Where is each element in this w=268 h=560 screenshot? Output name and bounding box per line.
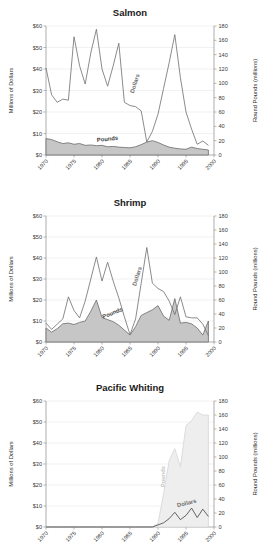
salmon-y-left-ticklabel: $10 [33, 131, 42, 137]
salmon-x-ticklabel: 1990 [148, 158, 161, 171]
pacific-whiting-y-left-ticklabel: $40 [33, 440, 42, 446]
shrimp-x-ticklabel: 1990 [148, 345, 161, 358]
salmon-y-left-ticklabel: $20 [33, 109, 42, 115]
shrimp-x-ticklabel: 1975 [64, 345, 77, 358]
shrimp-y-left-ticklabel: $50 [33, 234, 42, 240]
shrimp-y-left-ticklabel: $40 [33, 255, 42, 261]
shrimp-y-left-ticklabel: $0 [36, 339, 42, 345]
salmon-x-ticklabel: 1975 [64, 158, 77, 171]
pacific-whiting-y-left-ticklabel: $60 [33, 398, 42, 404]
shrimp-y-axis-left-title: Millions of Dollars [8, 256, 14, 302]
shrimp-chart-title: Shrimp [114, 197, 147, 208]
shrimp-y-axis-right-title: Round Pounds (millions) [252, 247, 258, 310]
shrimp-chart-svg: $0$10$20$30$40$50$6002040608010012014016… [0, 190, 268, 375]
chart-panel-shrimp: $0$10$20$30$40$50$6002040608010012014016… [0, 190, 268, 375]
pacific-whiting-y-right-ticklabel: 80 [219, 468, 225, 474]
salmon-y-right-ticklabel: 160 [219, 37, 228, 43]
salmon-y-right-ticklabel: 120 [219, 66, 228, 72]
figure-root: $0$10$20$30$40$50$6002040608010012014016… [0, 0, 268, 560]
shrimp-x-ticklabel: 2000 [204, 345, 217, 358]
salmon-chart-svg: $0$10$20$30$40$50$6002040608010012014016… [0, 0, 268, 190]
salmon-y-right-ticklabel: 80 [219, 95, 225, 101]
shrimp-y-right-ticklabel: 0 [219, 339, 222, 345]
shrimp-x-ticklabel: 1985 [120, 345, 133, 358]
pacific-whiting-x-ticklabel: 1980 [92, 530, 105, 543]
salmon-y-left-ticklabel: $40 [33, 66, 42, 72]
pacific-whiting-y-right-ticklabel: 20 [219, 510, 225, 516]
salmon-x-ticklabel: 1980 [92, 158, 105, 171]
shrimp-y-right-ticklabel: 180 [219, 213, 228, 219]
chart-panel-pacific-whiting: $0$10$20$30$40$50$6002040608010012014016… [0, 375, 268, 560]
salmon-x-ticklabel: 1995 [176, 158, 189, 171]
pacific-whiting-y-left-ticklabel: $20 [33, 482, 42, 488]
salmon-y-axis-left-title: Millions of Dollars [8, 68, 14, 114]
shrimp-y-right-ticklabel: 120 [219, 255, 228, 261]
salmon-y-right-ticklabel: 20 [219, 138, 225, 144]
salmon-y-right-ticklabel: 60 [219, 109, 225, 115]
salmon-y-left-ticklabel: $0 [36, 152, 42, 158]
shrimp-y-right-ticklabel: 60 [219, 297, 225, 303]
pacific-whiting-y-axis-right-title: Round Pounds (millions) [252, 432, 258, 495]
salmon-y-right-ticklabel: 180 [219, 23, 228, 29]
pacific-whiting-y-left-ticklabel: $30 [33, 461, 42, 467]
salmon-y-right-ticklabel: 40 [219, 123, 225, 129]
salmon-x-ticklabel: 2000 [204, 158, 217, 171]
shrimp-y-right-ticklabel: 80 [219, 283, 225, 289]
shrimp-y-left-ticklabel: $60 [33, 213, 42, 219]
shrimp-y-right-ticklabel: 160 [219, 227, 228, 233]
shrimp-y-right-ticklabel: 100 [219, 269, 228, 275]
pacific-whiting-annotation-pounds: Pounds [160, 466, 166, 487]
pacific-whiting-y-right-ticklabel: 60 [219, 482, 225, 488]
shrimp-x-ticklabel: 1970 [36, 345, 49, 358]
pacific-whiting-y-axis-left-title: Millions of Dollars [8, 441, 14, 487]
shrimp-y-left-ticklabel: $20 [33, 297, 42, 303]
shrimp-y-right-ticklabel: 40 [219, 311, 225, 317]
pacific-whiting-chart-title: Pacific Whiting [96, 382, 164, 393]
salmon-y-axis-right-title: Round Pounds (millions) [252, 59, 258, 122]
shrimp-y-right-ticklabel: 20 [219, 325, 225, 331]
pacific-whiting-y-right-ticklabel: 120 [219, 440, 228, 446]
salmon-chart-title: Salmon [113, 7, 148, 18]
shrimp-x-ticklabel: 1995 [176, 345, 189, 358]
pacific-whiting-y-right-ticklabel: 40 [219, 496, 225, 502]
shrimp-x-ticklabel: 1980 [92, 345, 105, 358]
pacific-whiting-chart-svg: $0$10$20$30$40$50$6002040608010012014016… [0, 375, 268, 560]
shrimp-y-left-ticklabel: $30 [33, 276, 42, 282]
pacific-whiting-x-ticklabel: 1990 [148, 530, 161, 543]
shrimp-y-right-ticklabel: 140 [219, 241, 228, 247]
pacific-whiting-x-ticklabel: 1970 [36, 530, 49, 543]
shrimp-y-left-ticklabel: $10 [33, 318, 42, 324]
pacific-whiting-x-ticklabel: 1975 [64, 530, 77, 543]
salmon-y-right-ticklabel: 140 [219, 52, 228, 58]
pacific-whiting-y-right-ticklabel: 160 [219, 412, 228, 418]
pacific-whiting-y-right-ticklabel: 0 [219, 524, 222, 530]
salmon-y-left-ticklabel: $30 [33, 88, 42, 94]
pacific-whiting-y-left-ticklabel: $10 [33, 503, 42, 509]
pacific-whiting-y-left-ticklabel: $50 [33, 419, 42, 425]
pacific-whiting-x-ticklabel: 1995 [176, 530, 189, 543]
salmon-x-ticklabel: 1985 [120, 158, 133, 171]
pacific-whiting-y-right-ticklabel: 180 [219, 398, 228, 404]
pacific-whiting-y-left-ticklabel: $0 [36, 524, 42, 530]
pacific-whiting-x-ticklabel: 2000 [204, 530, 217, 543]
salmon-y-right-ticklabel: 0 [219, 152, 222, 158]
pacific-whiting-x-ticklabel: 1985 [120, 530, 133, 543]
salmon-y-right-ticklabel: 100 [219, 80, 228, 86]
salmon-y-left-ticklabel: $60 [33, 23, 42, 29]
salmon-x-ticklabel: 1970 [36, 158, 49, 171]
pacific-whiting-y-right-ticklabel: 100 [219, 454, 228, 460]
salmon-y-left-ticklabel: $50 [33, 45, 42, 51]
pacific-whiting-y-right-ticklabel: 140 [219, 426, 228, 432]
chart-panel-salmon: $0$10$20$30$40$50$6002040608010012014016… [0, 0, 268, 190]
